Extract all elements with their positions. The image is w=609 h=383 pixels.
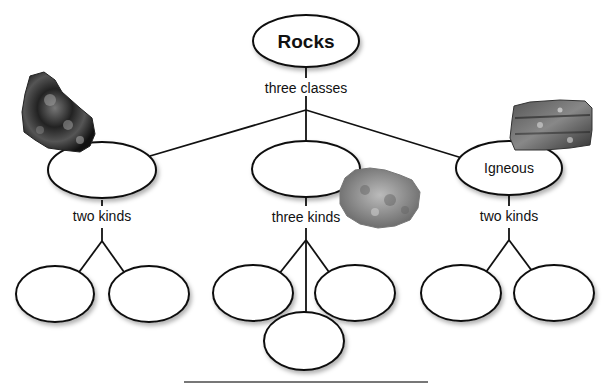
root-node: Rocks [253,15,359,67]
rock-classification-diagram: Rocks three classes Igneous two kinds th… [0,0,609,383]
class-1-link-label: two kinds [73,208,131,224]
leaf-node [514,265,594,321]
light-porous-rock-image [340,168,420,228]
leaf-node [421,265,501,321]
root-label: Rocks [277,31,334,52]
leaf-nodes [16,265,594,370]
granite-rock-image [510,100,592,150]
leaf-node [315,265,395,321]
leaf-node [16,266,94,322]
root-link-label: three classes [265,80,347,96]
svg-text:Igneous: Igneous [484,160,534,176]
class-3-link-label: two kinds [480,208,538,224]
dark-rock-image [22,72,95,152]
leaf-node [213,265,293,321]
leaf-node [264,312,344,370]
class-2-link-label: three kinds [272,209,340,225]
leaf-node [109,266,189,322]
